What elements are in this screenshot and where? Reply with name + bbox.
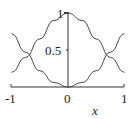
x-axis-label: x — [92, 104, 98, 117]
x-tick-label: -1 — [5, 92, 16, 105]
x-tick-label: 1 — [121, 92, 128, 105]
chart: -1 0 1 0.5 1 x — [0, 0, 134, 119]
x-tick-label: 0 — [64, 92, 71, 105]
y-tick-label: 1 — [57, 7, 64, 20]
y-tick-label: 0.5 — [45, 44, 61, 57]
